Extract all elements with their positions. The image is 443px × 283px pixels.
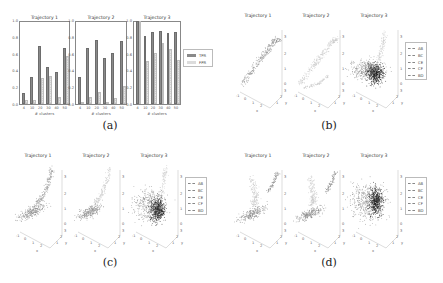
svg-text:-1: -1 xyxy=(236,94,240,98)
line-marker-icon xyxy=(408,190,415,191)
svg-text:x: x xyxy=(36,249,39,253)
svg-text:1: 1 xyxy=(284,67,286,71)
svg-text:1: 1 xyxy=(122,207,124,211)
legend-item-cf: CF xyxy=(188,201,203,206)
svg-text:3: 3 xyxy=(400,35,402,39)
x-tick-label: 4 xyxy=(20,106,28,110)
svg-text:Trajectory 3: Trajectory 3 xyxy=(359,153,387,158)
y-tick-label: 0.8 xyxy=(62,36,74,40)
svg-text:x: x xyxy=(372,249,375,253)
svg-text:x: x xyxy=(372,109,375,113)
svg-text:1: 1 xyxy=(392,241,394,245)
svg-text:1: 1 xyxy=(392,101,394,105)
svg-text:2: 2 xyxy=(342,192,344,196)
svg-text:2: 2 xyxy=(260,104,262,108)
line-marker-icon xyxy=(408,75,415,76)
x-tick-label: 30 xyxy=(44,106,52,110)
svg-text:2: 2 xyxy=(284,192,286,196)
legend-item-ce: CE xyxy=(188,195,203,200)
svg-text:2: 2 xyxy=(280,235,282,239)
caption-d: (d) xyxy=(314,256,344,269)
line-marker-icon xyxy=(408,203,415,204)
svg-text:y: y xyxy=(285,241,288,245)
x-tick-label: 20 xyxy=(93,106,101,110)
svg-text:2: 2 xyxy=(338,235,340,239)
svg-text:0: 0 xyxy=(64,222,67,226)
legend-item-bc: BC xyxy=(188,188,203,193)
svg-text:x: x xyxy=(152,249,155,253)
legend-item-bd: BD xyxy=(188,208,204,213)
svg-text:0: 0 xyxy=(360,237,363,241)
svg-text:1: 1 xyxy=(90,241,92,245)
tpr-bar xyxy=(78,77,81,104)
svg-text:1: 1 xyxy=(172,241,174,245)
svg-text:-1: -1 xyxy=(294,234,298,238)
legend-item-ce: CE xyxy=(408,60,423,65)
y-tick-label: 0.0 xyxy=(6,103,18,107)
svg-text:0: 0 xyxy=(342,82,345,86)
x-axis-label: # clusters xyxy=(19,111,70,116)
y-tick-label: 0.2 xyxy=(6,86,18,90)
svg-text:3: 3 xyxy=(400,229,402,233)
svg-text:Trajectory 2: Trajectory 2 xyxy=(301,153,329,158)
y-tick-label: 0.8 xyxy=(120,36,132,40)
fpr-bar xyxy=(98,92,101,104)
svg-text:2: 2 xyxy=(396,235,398,239)
svg-text:2: 2 xyxy=(64,192,66,196)
y-tick-label: 0.6 xyxy=(120,53,132,57)
svg-text:y: y xyxy=(123,241,126,245)
svg-text:1: 1 xyxy=(342,207,344,211)
x-tick-label: 20 xyxy=(36,106,44,110)
line-marker-icon xyxy=(188,190,195,191)
y-tick-label: 0.4 xyxy=(120,69,132,73)
svg-text:1: 1 xyxy=(32,241,34,245)
y-tick-label: 0.0 xyxy=(62,103,74,107)
fpr-bar xyxy=(177,60,180,104)
y-tick-label: 0.4 xyxy=(62,69,74,73)
svg-text:2: 2 xyxy=(280,95,282,99)
svg-text:1: 1 xyxy=(252,241,254,245)
svg-text:0: 0 xyxy=(400,82,403,86)
svg-text:0: 0 xyxy=(400,222,403,226)
fpr-bar xyxy=(139,21,142,104)
svg-text:Trajectory 3: Trajectory 3 xyxy=(359,13,387,18)
svg-text:2: 2 xyxy=(260,244,262,248)
line-marker-icon xyxy=(188,203,195,204)
legend-item-ce: CE xyxy=(408,195,423,200)
svg-text:Trajectory 2: Trajectory 2 xyxy=(301,13,329,18)
caption-c: (c) xyxy=(95,256,125,269)
svg-text:y: y xyxy=(343,241,346,245)
svg-text:2: 2 xyxy=(98,244,100,248)
svg-text:3: 3 xyxy=(342,89,344,93)
svg-text:y: y xyxy=(401,101,404,105)
svg-text:1: 1 xyxy=(114,241,116,245)
svg-text:Trajectory 1: Trajectory 1 xyxy=(23,153,51,158)
tpr-bar xyxy=(111,53,114,104)
fpr-bar xyxy=(33,100,36,104)
svg-text:1: 1 xyxy=(310,101,312,105)
svg-text:0: 0 xyxy=(244,97,247,101)
x-tick-label: 50 xyxy=(172,106,180,110)
svg-text:2: 2 xyxy=(122,192,124,196)
svg-text:0: 0 xyxy=(82,237,85,241)
svg-text:1: 1 xyxy=(276,241,278,245)
fpr-bar xyxy=(58,97,61,104)
fpr-bar xyxy=(169,49,172,104)
y-tick-label: 0.0 xyxy=(120,103,132,107)
svg-text:2: 2 xyxy=(60,235,62,239)
line-marker-icon xyxy=(408,62,415,63)
svg-text:3: 3 xyxy=(64,229,66,233)
legend-item-ab: AB xyxy=(408,46,423,51)
svg-text:1: 1 xyxy=(400,207,402,211)
svg-text:3: 3 xyxy=(400,175,402,179)
svg-text:Trajectory 1: Trajectory 1 xyxy=(243,13,271,18)
y-tick-label: 0.2 xyxy=(62,86,74,90)
svg-text:1: 1 xyxy=(342,67,344,71)
fpr-bar xyxy=(25,100,28,104)
svg-text:3: 3 xyxy=(284,89,286,93)
svg-text:Trajectory 2: Trajectory 2 xyxy=(81,153,109,158)
svg-text:2: 2 xyxy=(40,244,42,248)
fpr-bar xyxy=(114,98,117,104)
svg-text:x: x xyxy=(314,109,317,113)
y-tick-label: 0.6 xyxy=(6,53,18,57)
